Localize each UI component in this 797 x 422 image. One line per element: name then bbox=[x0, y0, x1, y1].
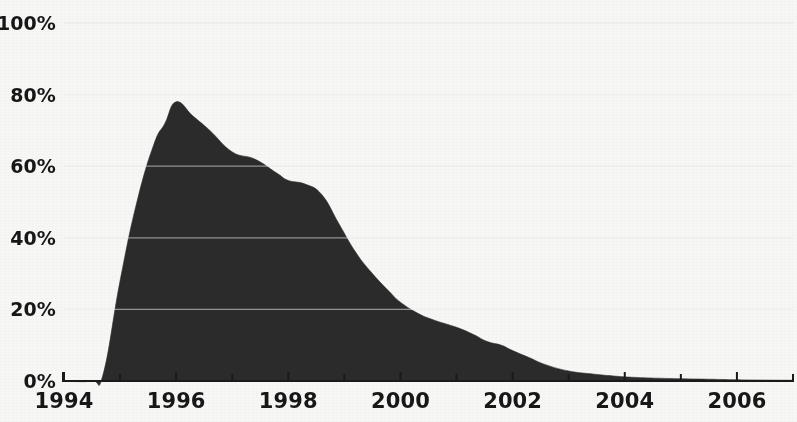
chart-plot-area bbox=[0, 0, 797, 422]
area-chart: 0%20%40%60%80%100% 199419961998200020022… bbox=[0, 0, 797, 422]
area-series-fill bbox=[64, 102, 793, 386]
